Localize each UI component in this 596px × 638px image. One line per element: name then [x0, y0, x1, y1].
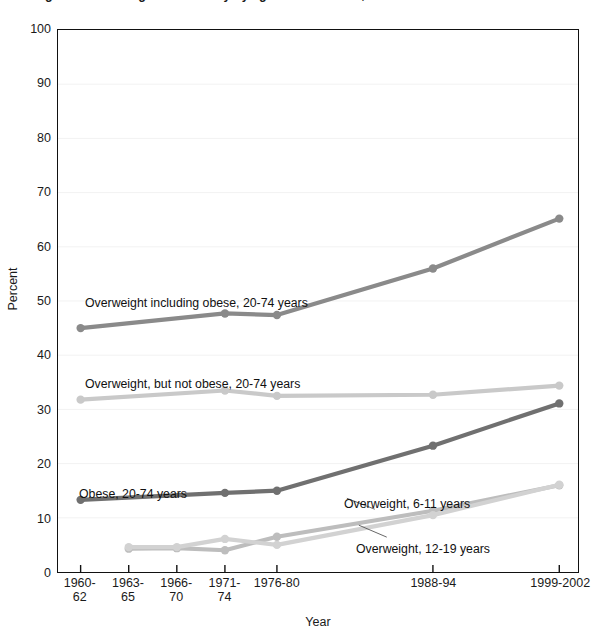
- y-tick-label-10: 10: [5, 513, 51, 525]
- series-data-point: [555, 381, 563, 389]
- series-data-point: [555, 481, 563, 489]
- x-tick-label-1976-80: 1976-80: [232, 576, 322, 590]
- series-data-point: [555, 214, 563, 222]
- y-tick-label-100: 100: [5, 23, 51, 35]
- series-data-point: [429, 264, 437, 272]
- series-annotation-label: Obese, 20-74 years: [79, 488, 187, 501]
- x-tick-label-line1: 1999-2002: [530, 576, 590, 590]
- y-tick-label-30: 30: [5, 404, 51, 416]
- x-tick-label-1999-2002: 1999-2002: [515, 576, 596, 590]
- x-tick-label-1988-94: 1988-94: [388, 576, 478, 590]
- y-axis-title: Percent: [6, 249, 20, 329]
- series-line: [81, 403, 560, 499]
- series-data-point: [429, 511, 437, 519]
- x-axis-title: Year: [57, 615, 579, 629]
- series-data-point: [76, 395, 84, 403]
- x-axis-tick-labels: 1960-621963-651966-701971-741976-801988-…: [57, 576, 579, 616]
- y-tick-label-40: 40: [5, 349, 51, 361]
- series-line: [81, 219, 560, 328]
- series-data-point: [273, 533, 281, 541]
- series-data-point: [221, 309, 229, 317]
- series-annotation-label: Overweight including obese, 20-74 years: [85, 297, 308, 310]
- series-data-point: [555, 399, 563, 407]
- series-data-point: [273, 487, 281, 495]
- series-data-point: [273, 541, 281, 549]
- series-annotation-label: Overweight, 12-19 years: [356, 543, 490, 556]
- series-data-point: [76, 324, 84, 332]
- series-annotation-label: Overweight, 6-11 years: [344, 498, 470, 511]
- y-tick-label-90: 90: [5, 77, 51, 89]
- series-data-point: [221, 489, 229, 497]
- series-data-point: [221, 546, 229, 554]
- y-tick-label-20: 20: [5, 458, 51, 470]
- series-data-point: [273, 392, 281, 400]
- chart-figure: Figure 1. Overweight and obesity by age:…: [0, 0, 596, 638]
- y-tick-label-80: 80: [5, 132, 51, 144]
- series-data-point: [125, 543, 133, 551]
- x-tick-label-line2: 74: [180, 590, 270, 604]
- series-data-point: [173, 543, 181, 551]
- series-data-point: [429, 441, 437, 449]
- series-data-point: [273, 311, 281, 319]
- y-tick-label-70: 70: [5, 186, 51, 198]
- x-tick-label-line1: 1976-80: [254, 576, 300, 590]
- chart-title: Figure 1. Overweight and obesity by age:…: [34, 0, 584, 2]
- series-data-point: [429, 391, 437, 399]
- series-data-point: [221, 535, 229, 543]
- x-tick-label-line1: 1988-94: [410, 576, 456, 590]
- series-annotation-label: Overweight, but not obese, 20-74 years: [85, 378, 300, 391]
- plot-area: Overweight including obese, 20-74 yearsO…: [57, 29, 579, 573]
